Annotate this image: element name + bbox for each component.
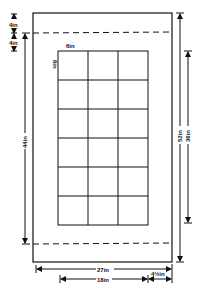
- left-44in-label: 44in: [22, 136, 28, 148]
- bottom-dashed-line: [33, 243, 172, 244]
- right-36in-label: 36in: [185, 130, 191, 142]
- grid: [58, 51, 148, 225]
- top-margin-label: 4in: [9, 22, 18, 28]
- top-dashed-line: [33, 32, 172, 33]
- dimension-diagram: 6in 6in 4in 4in 44in 52in 36in 27in 18in…: [0, 0, 204, 300]
- bottom-4half-label: 4½in: [151, 271, 165, 277]
- bottom-18in-label: 18in: [97, 277, 109, 283]
- cell-height-label: 6in: [52, 60, 58, 69]
- right-52in-label: 52in: [177, 130, 183, 142]
- inner-offset-label: 4in: [9, 40, 18, 46]
- cell-width-label: 6in: [66, 43, 75, 49]
- bottom-27in-label: 27in: [97, 267, 109, 273]
